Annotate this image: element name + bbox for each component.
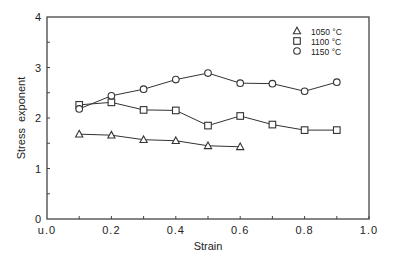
- legend-label: 1050 °C: [311, 27, 342, 37]
- series-triangle: [76, 130, 244, 149]
- circle-marker-icon: [237, 80, 244, 87]
- y-tick-label: 2: [35, 112, 41, 124]
- y-tick-label: 3: [35, 62, 41, 74]
- legend-label: 1150 °C: [311, 47, 341, 57]
- x-tick-label: 0.6: [231, 224, 249, 236]
- triangle-marker-icon: [293, 27, 300, 34]
- circle-marker-icon: [269, 80, 276, 87]
- circle-marker-icon: [76, 106, 83, 113]
- legend: 1050 °C1100 °C1150 °C: [293, 27, 341, 57]
- y-tick-label: 1: [35, 163, 41, 175]
- triangle-marker-icon: [76, 130, 83, 137]
- y-axis-ticks: 01234: [35, 11, 50, 225]
- y-tick-label: 0: [35, 213, 41, 225]
- square-marker-icon: [334, 127, 341, 134]
- circle-marker-icon: [294, 48, 301, 55]
- data-series: [76, 70, 341, 150]
- circle-marker-icon: [108, 92, 115, 99]
- square-marker-icon: [173, 107, 180, 114]
- series-circle: [76, 70, 340, 112]
- y-axis-label: Stress exponent: [15, 77, 27, 160]
- square-marker-icon: [269, 121, 276, 128]
- square-marker-icon: [237, 113, 244, 120]
- x-tick-label: 0.8: [295, 224, 313, 236]
- x-axis-label: Strain: [194, 240, 223, 252]
- circle-marker-icon: [140, 86, 147, 93]
- square-marker-icon: [108, 99, 115, 106]
- circle-marker-icon: [173, 76, 180, 83]
- square-marker-icon: [301, 127, 308, 134]
- y-tick-label: 4: [35, 11, 41, 23]
- x-tick-label: 1.0: [360, 224, 378, 236]
- series-square: [76, 99, 340, 133]
- circle-marker-icon: [301, 88, 308, 95]
- circle-marker-icon: [334, 79, 341, 86]
- legend-label: 1100 °C: [311, 37, 341, 47]
- square-marker-icon: [140, 107, 147, 114]
- x-tick-label: 0.4: [167, 224, 185, 236]
- x-tick-label: u.0: [38, 224, 56, 236]
- circle-marker-icon: [205, 70, 212, 77]
- square-marker-icon: [294, 38, 301, 45]
- stress-exponent-chart: u.00.20.40.60.81.0 01234 1050 °C1100 °C1…: [0, 0, 394, 265]
- square-marker-icon: [205, 122, 212, 129]
- x-tick-label: 0.2: [102, 224, 120, 236]
